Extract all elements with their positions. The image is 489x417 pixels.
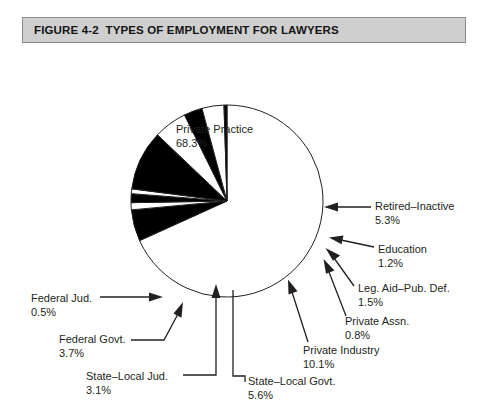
- slice-label-state-local-jud-value: 3.1%: [86, 384, 168, 398]
- slice-label-federal-govt-value: 3.7%: [59, 347, 126, 361]
- arrowhead-retired-inactive: [324, 203, 338, 212]
- slice-label-state-local-jud-name: State–Local Jud.: [86, 370, 168, 382]
- slice-label-retired-inactive: Retired–Inactive 5.3%: [375, 200, 455, 227]
- slice-label-federal-govt: Federal Govt. 3.7%: [59, 333, 126, 360]
- slice-label-federal-jud: Federal Jud. 0.5%: [31, 292, 92, 319]
- arrowhead-federal-govt: [174, 302, 184, 318]
- leader-line-private-industry: [292, 292, 308, 342]
- arrowhead-private-assn: [324, 259, 335, 274]
- slice-label-education: Education 1.2%: [378, 243, 427, 270]
- slice-label-education-name: Education: [378, 243, 427, 255]
- slice-label-private-assn-name: Private Assn.: [345, 315, 409, 327]
- arrowhead-private-industry: [288, 280, 298, 295]
- leader-line-education: [341, 240, 374, 247]
- slice-label-retired-inactive-value: 5.3%: [375, 214, 455, 228]
- slice-label-retired-inactive-name: Retired–Inactive: [375, 200, 455, 212]
- slice-label-federal-jud-value: 0.5%: [31, 306, 92, 320]
- slice-label-private-assn-value: 0.8%: [345, 329, 409, 343]
- slice-label-state-local-jud: State–Local Jud. 3.1%: [86, 370, 168, 397]
- arrowhead-federal-jud: [149, 293, 163, 302]
- slice-label-private-assn: Private Assn. 0.8%: [345, 315, 409, 342]
- slice-label-education-value: 1.2%: [378, 257, 427, 271]
- slice-label-private-industry-name: Private Industry: [303, 344, 379, 356]
- slice-label-legal-aid-value: 1.5%: [358, 296, 450, 310]
- slice-label-private-practice-value: 68.3%: [176, 137, 253, 151]
- slice-label-private-industry: Private Industry 10.1%: [303, 344, 379, 371]
- figure-title-bar: FIGURE 4-2 TYPES OF EMPLOYMENT FOR LAWYE…: [22, 17, 466, 43]
- slice-label-legal-aid-name: Leg. Aid–Pub. Def.: [358, 282, 450, 294]
- leader-line-federal-govt: [131, 314, 178, 340]
- slice-label-federal-jud-name: Federal Jud.: [31, 292, 92, 304]
- slice-label-state-local-govt-name: State–Local Govt.: [248, 375, 335, 387]
- slice-label-state-local-govt: State–Local Govt. 5.6%: [248, 375, 335, 402]
- pie-chart-svg: [0, 44, 489, 417]
- arrowhead-education: [329, 236, 344, 245]
- leader-line-state-local-jud: [183, 296, 216, 375]
- leader-line-state-local-govt: [233, 290, 245, 382]
- pie-chart: Private Practice 68.3% Retired–Inactive …: [0, 44, 489, 417]
- leader-line-legal-aid: [334, 258, 354, 286]
- slice-label-legal-aid: Leg. Aid–Pub. Def. 1.5%: [358, 282, 450, 309]
- slice-label-private-practice: Private Practice 68.3%: [176, 123, 253, 150]
- slice-label-federal-govt-name: Federal Govt.: [59, 333, 126, 345]
- figure-title-label: FIGURE 4-2 TYPES OF EMPLOYMENT FOR LAWYE…: [23, 24, 339, 36]
- leader-line-private-assn: [329, 272, 346, 316]
- arrowhead-legal-aid: [326, 248, 341, 261]
- slice-label-private-industry-value: 10.1%: [303, 358, 379, 372]
- slice-label-state-local-govt-value: 5.6%: [248, 389, 335, 403]
- slice-label-private-practice-name: Private Practice: [176, 123, 253, 135]
